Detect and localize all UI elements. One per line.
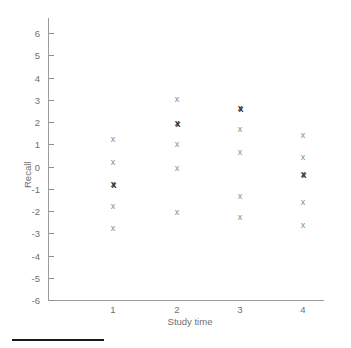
y-tick-label: 4 (18, 74, 40, 83)
data-point-marker: x (297, 198, 309, 207)
coincident-point-overlay: x (235, 105, 247, 114)
y-tick-mark (49, 144, 54, 145)
data-point-marker: x (234, 148, 246, 157)
y-tick-label: -4 (18, 252, 40, 261)
x-tick-label: 2 (167, 305, 187, 314)
y-tick-mark (49, 122, 54, 123)
coincident-point-overlay: x (172, 119, 184, 128)
data-point-marker: x (171, 208, 183, 217)
y-tick-mark (49, 300, 54, 301)
coincident-point-overlay: x (298, 170, 310, 179)
y-tick-label: -3 (18, 229, 40, 238)
data-point-marker: x (171, 95, 183, 104)
y-tick-label: 1 (18, 140, 40, 149)
y-tick-mark (49, 33, 54, 34)
y-tick-label: -6 (18, 296, 40, 305)
y-tick-label: -5 (18, 274, 40, 283)
y-tick-mark (49, 167, 54, 168)
data-point-marker: x (107, 202, 119, 211)
y-tick-mark (49, 233, 54, 234)
data-point-marker: x (171, 140, 183, 149)
y-tick-label: -2 (18, 207, 40, 216)
data-point-marker: x (234, 213, 246, 222)
y-tick-mark (49, 278, 54, 279)
data-point-marker: xx (171, 119, 183, 128)
y-tick-mark (49, 100, 54, 101)
data-point-marker: x (107, 224, 119, 233)
y-tick-label: 5 (18, 51, 40, 60)
y-tick-mark (49, 78, 54, 79)
x-tick-label: 4 (293, 305, 313, 314)
data-point-marker: x (234, 125, 246, 134)
data-point-marker: x (107, 135, 119, 144)
data-point-marker: xx (234, 104, 246, 113)
x-axis-line (48, 300, 324, 301)
data-point-marker: x (107, 158, 119, 167)
y-tick-mark (49, 256, 54, 257)
y-tick-label: 6 (18, 29, 40, 38)
scatter-plot-figure: 6543210-1-2-3-4-5-6 1234 xxxxxxxxxxxxxxx… (0, 0, 351, 348)
data-point-marker: x (297, 153, 309, 162)
y-tick-label: 2 (18, 118, 40, 127)
data-point-marker: xx (107, 180, 119, 189)
y-tick-mark (49, 55, 54, 56)
y-tick-label: 3 (18, 96, 40, 105)
y-axis-line (48, 18, 49, 300)
bottom-divider-rule (12, 339, 104, 341)
y-tick-mark (49, 189, 54, 190)
data-point-marker: x (297, 131, 309, 140)
data-point-marker: xx (297, 170, 309, 179)
x-axis-title: Study time (150, 316, 230, 327)
y-tick-mark (49, 211, 54, 212)
coincident-point-overlay: x (108, 180, 120, 189)
data-point-marker: x (234, 192, 246, 201)
x-tick-label: 3 (230, 305, 250, 314)
data-point-marker: x (171, 164, 183, 173)
x-tick-label: 1 (103, 305, 123, 314)
data-point-marker: x (297, 221, 309, 230)
y-axis-title: Recall (22, 162, 33, 188)
